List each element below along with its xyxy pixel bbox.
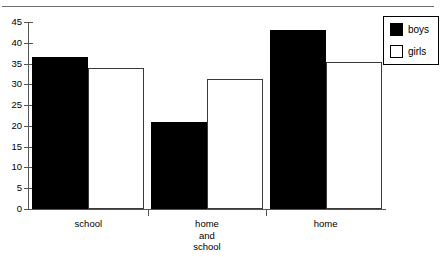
category-label-line: school <box>148 241 267 253</box>
legend-swatch-boys-icon <box>390 23 403 36</box>
bar-girls-group-2 <box>207 79 263 209</box>
y-tick-label: 5 <box>0 183 22 193</box>
y-tick-label-wrap: 25 <box>0 100 22 110</box>
category-label-line: home <box>148 218 267 230</box>
category-label-line: school <box>29 218 148 230</box>
legend-label-girls: girls <box>408 46 426 58</box>
y-tick-label-wrap: 15 <box>0 142 22 152</box>
y-tick-0 <box>24 209 33 210</box>
y-tick-label: 35 <box>0 59 22 69</box>
y-tick-label: 45 <box>0 17 22 27</box>
y-tick-label-wrap: 0 <box>0 204 22 214</box>
y-tick-label: 10 <box>0 162 22 172</box>
y-tick-label: 20 <box>0 121 22 131</box>
category-label-2: homeandschool <box>148 218 267 253</box>
y-tick-label: 15 <box>0 142 22 152</box>
legend-swatch-girls-icon <box>390 45 403 58</box>
legend-label-boys: boys <box>408 24 429 36</box>
category-label-3: home <box>266 218 385 230</box>
y-tick-label-wrap: 40 <box>0 38 22 48</box>
bar-girls-group-1 <box>88 68 144 209</box>
category-label-1: school <box>29 218 148 230</box>
bar-chart: 051015202530354045 schoolhomeandschoolho… <box>0 10 445 257</box>
cropped-caption <box>0 0 445 4</box>
bar-boys-group-1 <box>32 57 88 209</box>
y-tick-label-wrap: 35 <box>0 59 22 69</box>
y-tick-label-wrap: 10 <box>0 162 22 172</box>
x-separator-2 <box>266 209 267 216</box>
bar-girls-group-3 <box>326 62 382 209</box>
y-tick-label-wrap: 45 <box>0 17 22 27</box>
y-tick-label: 0 <box>0 204 22 214</box>
y-tick-label-wrap: 30 <box>0 79 22 89</box>
x-axis-line <box>28 209 386 210</box>
category-label-line: and <box>148 230 267 242</box>
category-label-line: home <box>266 218 385 230</box>
legend: boys girls <box>383 16 439 65</box>
header-rule <box>2 6 434 7</box>
y-tick-label: 40 <box>0 38 22 48</box>
bar-boys-group-2 <box>151 122 207 209</box>
y-tick-label: 30 <box>0 79 22 89</box>
y-tick-label: 25 <box>0 100 22 110</box>
y-tick-label-wrap: 20 <box>0 121 22 131</box>
plot-area <box>29 22 385 209</box>
x-separator-1 <box>148 209 149 216</box>
y-tick-label-wrap: 5 <box>0 183 22 193</box>
bar-boys-group-3 <box>270 30 326 209</box>
